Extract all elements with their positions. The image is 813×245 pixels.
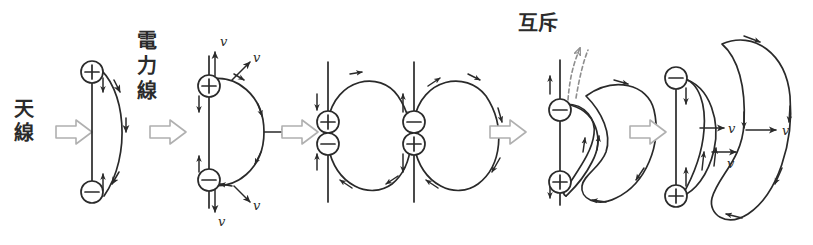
stage-arrow-5 bbox=[630, 120, 666, 144]
velocity-label-top: v bbox=[220, 34, 228, 49]
repulsion-dashed-arrow-edge bbox=[576, 50, 588, 98]
velocity-label-c: v bbox=[782, 123, 790, 138]
stage-5-group: v v v bbox=[665, 36, 791, 220]
antenna-label-char1: 天線 bbox=[14, 97, 35, 145]
label-antenna: 天線 bbox=[14, 97, 35, 145]
label-field-line: 電力線 bbox=[137, 29, 157, 103]
diagram-canvas: 天線 電力線 bbox=[0, 0, 813, 245]
velocity-arrow-lower-right bbox=[234, 186, 250, 202]
charge-plus-2 bbox=[198, 75, 220, 97]
stage-arrow-4 bbox=[490, 120, 526, 144]
field-loop-5-inner bbox=[682, 78, 716, 196]
field-arrow bbox=[702, 152, 704, 170]
charge-minus-3b bbox=[403, 111, 425, 133]
velocity-label-b: v bbox=[727, 156, 735, 171]
stage-3b-group bbox=[403, 62, 502, 202]
repulsion-dashed-arrow bbox=[568, 48, 580, 100]
field-line-label: 電力線 bbox=[137, 29, 157, 103]
field-arrow bbox=[775, 168, 782, 184]
charge-minus-2 bbox=[198, 169, 220, 191]
field-arrow bbox=[614, 80, 628, 84]
charge-minus-4 bbox=[549, 99, 571, 121]
field-arrow bbox=[350, 72, 362, 74]
charge-plus-3 bbox=[317, 111, 339, 133]
charge-plus-4 bbox=[549, 171, 571, 193]
velocity-label-a: v bbox=[728, 121, 736, 136]
velocity-arrow-upper-right bbox=[232, 62, 250, 80]
field-loop-3 bbox=[328, 81, 411, 190]
field-arrow bbox=[255, 152, 261, 164]
label-repulsion: 互斥 bbox=[518, 11, 558, 35]
field-loop-4-outer bbox=[582, 85, 656, 202]
antenna-radiation-diagram: 天線 電力線 bbox=[0, 0, 813, 245]
repulsion-label: 互斥 bbox=[518, 11, 558, 35]
stage-arrow-2 bbox=[150, 120, 186, 144]
charge-minus-5 bbox=[665, 67, 687, 89]
field-arrow bbox=[726, 214, 742, 218]
charge-plus-3b bbox=[403, 133, 425, 155]
charge-minus-3 bbox=[317, 133, 339, 155]
charge-minus-1 bbox=[81, 181, 103, 203]
stage-3-group bbox=[317, 62, 412, 202]
stage-arrow-1 bbox=[56, 120, 92, 144]
stage-arrow-3 bbox=[282, 120, 318, 144]
field-arrow bbox=[583, 138, 585, 152]
field-loop-3b bbox=[414, 81, 499, 190]
field-arrow bbox=[789, 106, 790, 122]
field-arrow bbox=[258, 104, 262, 116]
velocity-label-lower-right: v bbox=[253, 198, 261, 213]
velocity-label-bottom: v bbox=[218, 214, 226, 229]
field-arrow bbox=[498, 108, 502, 122]
charge-plus-5 bbox=[665, 185, 687, 207]
field-line-1 bbox=[96, 66, 122, 196]
velocity-label-upper-right: v bbox=[253, 50, 261, 65]
charge-plus-1 bbox=[81, 61, 103, 83]
field-arrow bbox=[468, 74, 480, 80]
